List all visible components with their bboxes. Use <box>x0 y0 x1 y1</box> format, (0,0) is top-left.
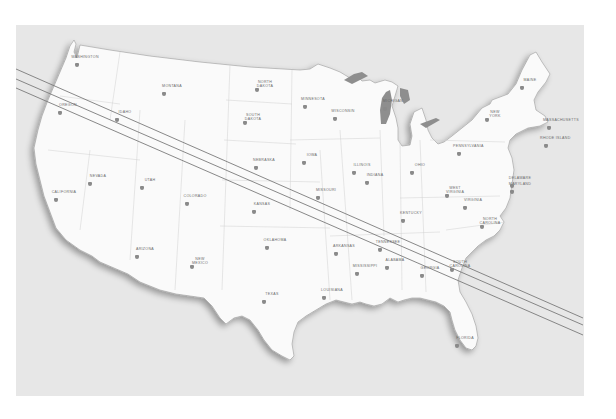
state-label-minnesota: MINNESOTA <box>299 97 327 101</box>
state-label-maine: MAINE <box>516 78 544 82</box>
city-marker-icon[interactable] <box>316 196 320 200</box>
city-marker-icon[interactable] <box>58 111 62 115</box>
city-marker-icon[interactable] <box>255 88 259 92</box>
city-marker-icon[interactable] <box>365 181 369 185</box>
state-label-illinois: ILLINOIS <box>348 163 376 167</box>
city-marker-icon[interactable] <box>303 105 307 109</box>
city-marker-icon[interactable] <box>480 225 484 229</box>
state-label-delaware: DELAWARE <box>506 176 534 180</box>
city-marker-icon[interactable] <box>463 206 467 210</box>
state-label-louisiana: LOUISIANA <box>318 288 346 292</box>
state-label-california: CALIFORNIA <box>50 190 78 194</box>
city-marker-icon[interactable] <box>547 126 551 130</box>
state-label-washington: WASHINGTON <box>71 55 99 59</box>
city-marker-icon[interactable] <box>254 166 258 170</box>
city-marker-icon[interactable] <box>355 272 359 276</box>
city-marker-icon[interactable] <box>383 107 387 111</box>
city-marker-icon[interactable] <box>135 255 139 259</box>
state-label-indiana: INDIANA <box>361 173 389 177</box>
city-marker-icon[interactable] <box>352 171 356 175</box>
city-marker-icon[interactable] <box>378 248 382 252</box>
city-marker-icon[interactable] <box>445 194 449 198</box>
city-marker-icon[interactable] <box>520 86 524 90</box>
state-label-kentucky: KENTUCKY <box>397 211 425 215</box>
city-marker-icon[interactable] <box>401 219 405 223</box>
us-map[interactable] <box>0 0 616 419</box>
state-label-south-dakota: SOUTH DAKOTA <box>239 113 267 121</box>
city-marker-icon[interactable] <box>333 117 337 121</box>
state-label-texas: TEXAS <box>258 292 286 296</box>
state-label-pennsylvania: PENNSYLVANIA <box>453 144 481 148</box>
state-label-idaho: IDAHO <box>111 110 139 114</box>
state-label-alabama: ALABAMA <box>381 258 409 262</box>
state-label-rhode-island: RHODE ISLAND <box>540 136 568 140</box>
city-marker-icon[interactable] <box>115 118 119 122</box>
state-label-west-virginia: WEST VIRGINIA <box>441 186 469 194</box>
state-label-ohio: OHIO <box>406 163 434 167</box>
city-marker-icon[interactable] <box>334 252 338 256</box>
state-label-south-carolina: SOUTH CAROLINA <box>446 260 474 268</box>
city-marker-icon[interactable] <box>190 265 194 269</box>
city-marker-icon[interactable] <box>420 274 424 278</box>
state-label-nebraska: NEBRASKA <box>250 158 278 162</box>
city-marker-icon[interactable] <box>385 266 389 270</box>
state-label-virginia: VIRGINIA <box>459 198 487 202</box>
city-marker-icon[interactable] <box>322 296 326 300</box>
city-marker-icon[interactable] <box>455 344 459 348</box>
state-label-iowa: IOWA <box>298 153 326 157</box>
city-marker-icon[interactable] <box>450 268 454 272</box>
city-marker-icon[interactable] <box>88 182 92 186</box>
state-label-north-carolina: NORTH CAROLINA <box>476 217 504 225</box>
city-marker-icon[interactable] <box>185 202 189 206</box>
state-label-montana: MONTANA <box>158 84 186 88</box>
state-label-massachusetts: MASSACHUSETTS <box>543 118 571 122</box>
state-label-missouri: MISSOURI <box>312 188 340 192</box>
state-label-arizona: ARIZONA <box>131 247 159 251</box>
state-label-georgia: GEORGIA <box>416 266 444 270</box>
city-marker-icon[interactable] <box>162 92 166 96</box>
city-marker-icon[interactable] <box>302 161 306 165</box>
state-label-michigan: MICHIGAN <box>379 99 407 103</box>
state-label-kansas: KANSAS <box>248 202 276 206</box>
state-label-oklahoma: OKLAHOMA <box>261 238 289 242</box>
city-marker-icon[interactable] <box>510 184 514 188</box>
state-label-tennessee: TENNESSEE <box>374 240 402 244</box>
city-marker-icon[interactable] <box>544 144 548 148</box>
state-label-florida: FLORIDA <box>451 336 479 340</box>
city-marker-icon[interactable] <box>457 152 461 156</box>
state-label-new-mexico: NEW MEXICO <box>186 257 214 265</box>
city-marker-icon[interactable] <box>140 186 144 190</box>
city-marker-icon[interactable] <box>54 198 58 202</box>
city-marker-icon[interactable] <box>485 118 489 122</box>
city-marker-icon[interactable] <box>265 246 269 250</box>
city-marker-icon[interactable] <box>410 171 414 175</box>
city-marker-icon[interactable] <box>510 190 514 194</box>
city-marker-icon[interactable] <box>243 121 247 125</box>
state-label-utah: UTAH <box>136 178 164 182</box>
state-label-oregon: OREGON <box>54 103 82 107</box>
city-marker-icon[interactable] <box>75 63 79 67</box>
state-label-north-dakota: NORTH DAKOTA <box>251 80 279 88</box>
state-label-arkansas: ARKANSAS <box>330 244 358 248</box>
city-marker-icon[interactable] <box>252 210 256 214</box>
state-label-nevada: NEVADA <box>84 174 112 178</box>
state-label-new-york: NEW YORK <box>481 110 509 118</box>
state-label-mississippi: MISSISSIPPI <box>351 264 379 268</box>
state-label-colorado: COLORADO <box>181 194 209 198</box>
city-marker-icon[interactable] <box>262 300 266 304</box>
state-label-wisconsin: WISCONSIN <box>329 109 357 113</box>
